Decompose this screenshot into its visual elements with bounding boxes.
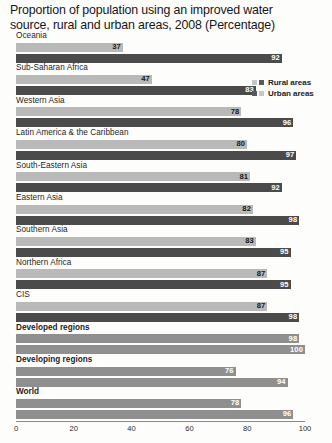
bar-urban: 95 [16,248,291,257]
bar-group-label: Northern Africa [16,258,71,267]
bar-group: Southern Asia8395 [0,225,332,257]
bar-urban: 98 [16,313,299,322]
bar-track-urban: 95 [16,280,305,289]
legend-item: Rural areas [252,77,332,88]
bar-group: World7896 [0,387,332,419]
bar-urban: 92 [16,54,282,63]
bar-group-label: Sub-Saharan Africa [16,63,88,72]
bar-group-label: South-Eastern Asia [16,161,87,170]
bar-track-rural: 78 [16,399,305,408]
bar-group: South-Eastern Asia8192 [0,161,332,193]
bar-urban: 83 [16,86,256,95]
legend-swatch-light [252,80,257,85]
bar-value-label: 94 [277,378,286,386]
bar-track-urban: 92 [16,183,305,192]
chart-container: Proportion of population using an improv… [0,0,332,443]
bar-track-rural: 37 [16,43,305,52]
bar-rural: 78 [16,107,241,116]
bar-group-label: Developing regions [16,355,92,364]
bar-value-label: 98 [289,216,298,224]
bar-group-label: Developed regions [16,323,90,332]
bar-value-label: 83 [245,238,254,246]
bar-group: Oceania3792 [0,31,332,63]
bar-value-label: 81 [239,173,248,181]
bar-track-rural: 87 [16,302,305,311]
bar-track-urban: 97 [16,151,305,160]
bar-rural: 76 [16,367,236,376]
bar-track-urban: 98 [16,313,305,322]
bar-rural: 82 [16,205,253,214]
bar-track-rural: 80 [16,140,305,149]
legend-swatch-dark [252,91,257,96]
bar-value-label: 87 [257,270,266,278]
bar-rural: 80 [16,140,247,149]
bar-group-label: World [16,387,39,396]
bar-track-urban: 92 [16,54,305,63]
bar-urban: 94 [16,378,288,387]
x-axis-line [16,421,305,422]
bar-value-label: 92 [271,184,280,192]
bar-group-label: Oceania [16,31,47,40]
bar-track-urban: 94 [16,378,305,387]
bar-group: Northern Africa8795 [0,258,332,290]
bar-urban: 92 [16,183,282,192]
bar-value-label: 97 [286,151,295,159]
x-tick-label: 20 [70,424,78,433]
bar-rural: 87 [16,269,267,278]
bar-group-label: Southern Asia [16,225,68,234]
bar-value-label: 96 [283,411,292,419]
bar-urban: 95 [16,280,291,289]
bar-track-rural: 81 [16,172,305,181]
bar-rural: 37 [16,43,123,52]
bar-urban: 97 [16,151,296,160]
bar-rural: 47 [16,75,152,84]
bar-track-rural: 82 [16,205,305,214]
chart-legend: Rural areasUrban areas [252,77,332,99]
bar-group: Developing regions7694 [0,355,332,387]
x-tick-label: 80 [243,424,251,433]
bar-value-label: 98 [289,313,298,321]
bar-value-label: 95 [280,249,289,257]
bar-value-label: 78 [231,108,240,116]
x-tick-label: 100 [299,424,312,433]
legend-label: Urban areas [268,89,314,98]
bar-group: CIS8798 [0,290,332,322]
bar-group: Western Asia7896 [0,96,332,128]
bar-value-label: 78 [231,400,240,408]
bar-value-label: 100 [290,346,303,354]
bar-value-label: 98 [289,335,298,343]
bar-value-label: 82 [242,205,251,213]
bar-track-rural: 98 [16,334,305,343]
bar-group: Developed regions98100 [0,323,332,355]
bar-rural: 83 [16,237,256,246]
bar-value-label: 87 [257,302,266,310]
bar-track-rural: 87 [16,269,305,278]
bar-track-urban: 95 [16,248,305,257]
bar-track-rural: 83 [16,237,305,246]
bar-group-label: CIS [16,290,30,299]
bar-track-urban: 100 [16,345,305,354]
bar-rural: 81 [16,172,250,181]
legend-swatch-light [259,91,264,96]
chart-title: Proportion of population using an improv… [10,3,310,33]
bar-group-label: Western Asia [16,96,65,105]
bar-value-label: 80 [237,140,246,148]
bar-track-urban: 96 [16,410,305,419]
legend-label: Rural areas [268,78,311,87]
legend-swatch-dark [259,80,264,85]
bar-value-label: 47 [141,76,150,84]
bar-urban: 96 [16,410,293,419]
bar-track-rural: 76 [16,367,305,376]
bar-group: Latin America & the Caribbean8097 [0,128,332,160]
bar-urban: 98 [16,216,299,225]
bar-value-label: 92 [271,54,280,62]
bar-rural: 98 [16,334,299,343]
bar-value-label: 37 [112,43,121,51]
x-tick-label: 40 [127,424,135,433]
x-tick-label: 60 [185,424,193,433]
bar-group: Eastern Asia8298 [0,193,332,225]
bar-group-label: Latin America & the Caribbean [16,128,129,137]
bar-value-label: 95 [280,281,289,289]
bar-track-urban: 96 [16,118,305,127]
bar-track-rural: 78 [16,107,305,116]
